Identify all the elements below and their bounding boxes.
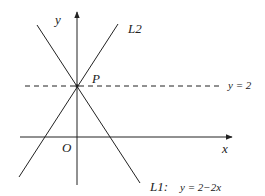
l1-label: L1: [149, 179, 168, 194]
l1-eq-label: y = 2−2x [179, 181, 221, 193]
point-p-label: P [91, 71, 100, 86]
y-axis-label: y [53, 12, 61, 27]
dashed-eq-label: y = 2 [227, 79, 252, 91]
origin-label: O [62, 140, 72, 155]
coordinate-diagram: y x O P L2 y = 2 L1: y = 2−2x [0, 0, 265, 196]
l2-label: L2 [127, 21, 142, 36]
diagram-svg: y x O P L2 y = 2 L1: y = 2−2x [0, 0, 265, 196]
line-l1 [37, 25, 140, 183]
x-axis-label: x [221, 141, 228, 156]
point-p [75, 84, 79, 88]
